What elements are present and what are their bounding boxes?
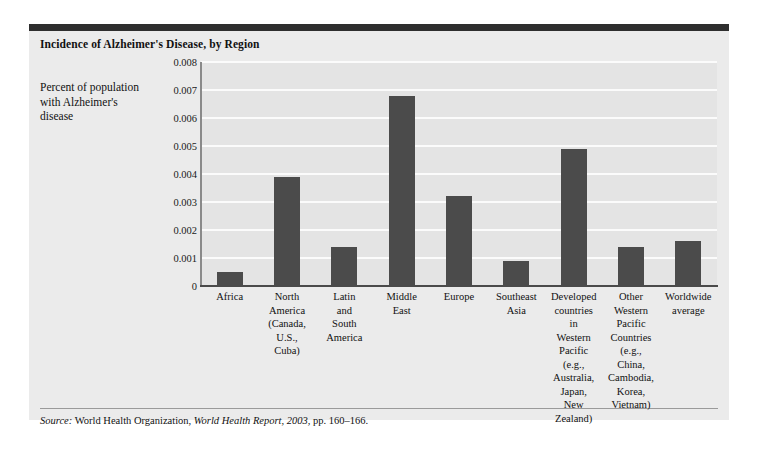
bar [389, 96, 415, 286]
source-publisher: World Health Organization, [75, 415, 191, 426]
y-axis-tick-label: 0.001 [173, 253, 197, 264]
bar [618, 247, 644, 286]
y-axis-tick-label: 0.002 [173, 225, 197, 236]
gridline [201, 173, 717, 175]
bar [503, 261, 529, 286]
gridline [201, 89, 717, 91]
bar [331, 247, 357, 286]
bar [217, 272, 243, 286]
y-axis-line [200, 62, 202, 286]
gridline [201, 145, 717, 147]
x-axis-tick-label: Worldwideaverage [653, 290, 724, 317]
bar [446, 196, 472, 286]
bar [561, 149, 587, 286]
top-rule [29, 24, 729, 31]
source-pages: , pp. 160–166. [308, 415, 368, 426]
source-work: World Health Report, 2003 [194, 415, 308, 426]
gridline [201, 117, 717, 119]
chart-title: Incidence of Alzheimer's Disease, by Reg… [40, 38, 260, 50]
figure-panel: Incidence of Alzheimer's Disease, by Reg… [29, 24, 729, 420]
y-axis-tick-label: 0.008 [173, 57, 197, 68]
source-prefix: Source: [40, 415, 72, 426]
gridline [201, 61, 717, 63]
y-axis-tick-label: 0.004 [173, 169, 197, 180]
bar [675, 241, 701, 286]
plot-area: 00.0010.0020.0030.0040.0050.0060.0070.00… [201, 62, 717, 286]
y-axis-label: Percent of population with Alzheimer's d… [40, 80, 150, 124]
bar [274, 177, 300, 286]
x-axis-line [200, 285, 718, 287]
y-axis-tick-label: 0.003 [173, 197, 197, 208]
source-note: Source: World Health Organization, World… [40, 415, 368, 426]
y-axis-tick-label: 0.005 [173, 141, 197, 152]
y-axis-tick-label: 0.007 [173, 85, 197, 96]
y-axis-tick-label: 0.006 [173, 113, 197, 124]
